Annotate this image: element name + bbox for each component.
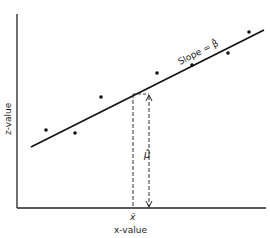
xbar-label: x̄ [129,212,136,222]
data-point [247,30,251,34]
data-point [155,71,159,75]
data-point [44,128,48,132]
regression-line [31,30,264,147]
data-point [190,63,194,67]
data-point [73,131,77,135]
y-axis-label: z-value [3,102,13,135]
mu-hat-label: μ̂ [143,149,150,160]
data-point [226,51,230,55]
regression-diagram: μ̂ x̄ x-value z-value Slope = β̂ [0,0,270,238]
data-point [99,95,103,99]
x-axis-label: x-value [114,225,147,235]
data-points [44,30,251,135]
slope-label: Slope = β̂ [176,36,221,66]
